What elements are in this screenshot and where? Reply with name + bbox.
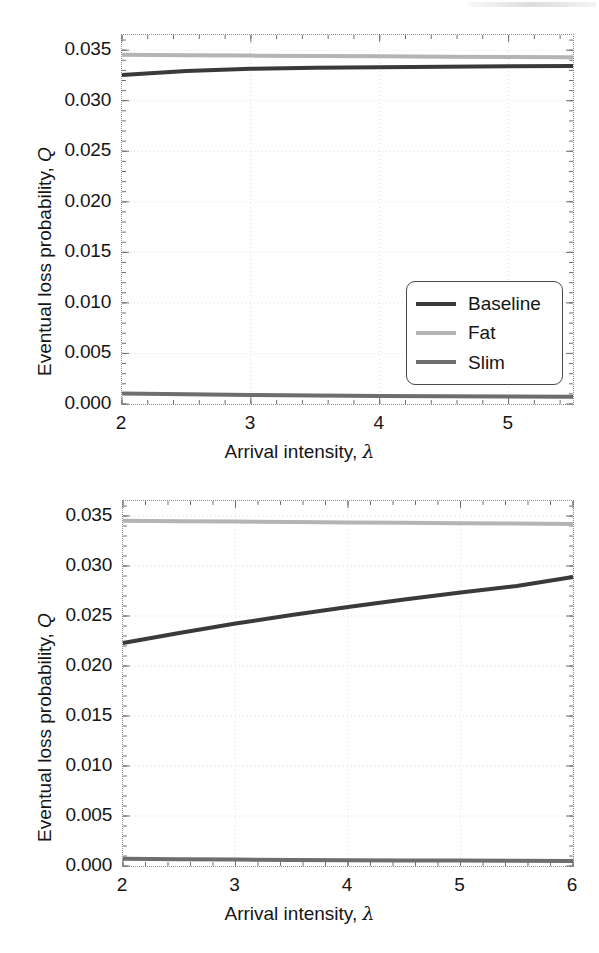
q-symbol: Q — [34, 613, 55, 628]
x-axis-title-top: Arrival intensity, λ — [0, 440, 599, 463]
x-tick-label: 3 — [229, 874, 239, 896]
y-axis-title-text-bottom: Eventual loss probability, Q — [34, 613, 55, 842]
x-tick-label: 4 — [342, 874, 352, 896]
x-tick-label: 5 — [502, 412, 512, 434]
legend-label: Slim — [468, 353, 505, 372]
y-tick-label: 0.005 — [4, 804, 112, 826]
y-tick-label: 0.030 — [4, 554, 112, 576]
y-tick-label: 0.030 — [3, 89, 111, 111]
y-axis-title-top: Eventual loss probability, Q — [34, 147, 56, 376]
x-axis-title-bottom: Arrival intensity, λ — [0, 902, 599, 925]
y-axis-title-text-top: Eventual loss probability, Q — [34, 147, 55, 376]
y-tick-label: 0.020 — [3, 190, 111, 212]
legend-label: Baseline — [468, 294, 541, 313]
x-tick-label: 5 — [454, 874, 464, 896]
q-symbol: Q — [34, 147, 55, 162]
y-tick-label: 0.025 — [4, 604, 112, 626]
series-line-slim — [122, 393, 573, 396]
x-tick-label: 4 — [374, 412, 384, 434]
y-tick-label: 0.035 — [4, 504, 112, 526]
y-tick-label: 0.025 — [3, 139, 111, 161]
plot-area-bottom — [122, 500, 574, 867]
x-tick-label: 2 — [117, 874, 127, 896]
y-tick-label: 0.010 — [3, 291, 111, 313]
y-tick-label: 0.015 — [4, 704, 112, 726]
legend-swatch-fat-icon — [416, 331, 456, 335]
y-tick-label: 0.005 — [3, 341, 111, 363]
x-tick-label: 2 — [116, 412, 126, 434]
series-line-slim — [123, 859, 573, 861]
series-line-baseline — [122, 66, 573, 75]
chart-panel-top: 0.0000.0050.0100.0150.0200.0250.0300.035… — [0, 0, 599, 478]
x-tick-label: 6 — [567, 874, 577, 896]
chart-panel-bottom: 0.0000.0050.0100.0150.0200.0250.0300.035… — [0, 470, 599, 953]
legend-item-baseline[interactable]: Baseline — [416, 289, 550, 318]
x-axis-title-text-bottom: Arrival intensity, λ — [224, 903, 374, 924]
series-line-fat — [122, 55, 573, 58]
y-tick-label: 0.000 — [3, 392, 111, 414]
series-line-fat — [123, 521, 573, 524]
legend-item-fat[interactable]: Fat — [416, 318, 550, 347]
legend-label: Fat — [468, 323, 495, 342]
y-tick-label: 0.000 — [4, 854, 112, 876]
y-axis-title-bottom: Eventual loss probability, Q — [34, 613, 56, 842]
lambda-symbol: λ — [362, 440, 374, 462]
figure-root: 0.0000.0050.0100.0150.0200.0250.0300.035… — [0, 0, 599, 953]
y-tick-label: 0.020 — [4, 654, 112, 676]
y-tick-label: 0.015 — [3, 240, 111, 262]
legend-top[interactable]: BaselineFatSlim — [406, 281, 563, 385]
y-tick-label: 0.035 — [3, 38, 111, 60]
lambda-symbol: λ — [362, 902, 374, 924]
legend-swatch-baseline-icon — [416, 302, 456, 306]
legend-swatch-slim-icon — [416, 360, 456, 364]
x-axis-title-text-top: Arrival intensity, λ — [224, 441, 374, 462]
plot-canvas-bottom — [123, 501, 573, 866]
y-tick-label: 0.010 — [4, 754, 112, 776]
legend-item-slim[interactable]: Slim — [416, 348, 550, 377]
x-tick-label: 3 — [245, 412, 255, 434]
